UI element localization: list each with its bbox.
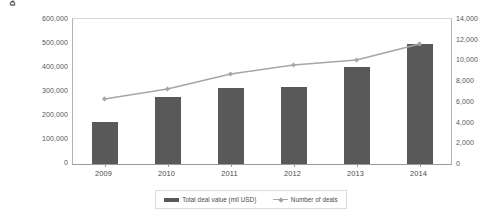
y-tick-right-10000: 10,000 [456,55,496,64]
chart-container: Deal value (mil USD) 600,000 500,000 400… [0,0,497,219]
y-tick-left-0: 0 [24,158,68,167]
x-label-2010: 2010 [135,168,198,179]
y-tick-left-500000: 500,000 [24,38,68,47]
line-marker-icon [273,197,288,202]
x-label-2009: 2009 [72,168,135,179]
y-tick-right-12000: 12,000 [456,35,496,44]
x-label-2014: 2014 [387,168,450,179]
line-marker-2012 [291,62,296,67]
y-tick-right-4000: 4,000 [456,118,496,127]
legend-item-total-deal-value: Total deal value (mil USD) [164,196,256,203]
x-tickmark-2011 [231,164,232,167]
x-label-2013: 2013 [324,168,387,179]
x-axis-category-labels: 200920102011201220132014 [72,168,450,180]
y-tick-left-100000: 100,000 [24,134,68,143]
y-tick-left-400000: 400,000 [24,62,68,71]
chart-legend: Total deal value (mil USD) Number of dea… [155,190,347,209]
x-tickmark-2009 [105,164,106,167]
y-tick-left-300000: 300,000 [24,86,68,95]
bar-swatch-icon [164,198,179,202]
x-tickmark-2014 [420,164,421,167]
x-tickmark-2010 [168,164,169,167]
line-marker-2013 [354,57,359,62]
y-tick-right-2000: 2,000 [456,138,496,147]
y-tick-left-600000: 600,000 [24,14,68,23]
x-tickmark-2012 [294,164,295,167]
line-marker-2010 [165,86,170,91]
y-axis-title: Deal value (mil USD) [6,0,20,36]
line-series-layer [73,19,451,164]
line-marker-2014 [417,41,422,46]
line-path-number-of-deals [105,44,420,99]
y-tick-left-200000: 200,000 [24,110,68,119]
x-label-2011: 2011 [198,168,261,179]
legend-label-number-of-deals: Number of deals [291,196,338,203]
legend-label-total-deal-value: Total deal value (mil USD) [182,196,256,203]
y-tick-right-6000: 6,000 [456,97,496,106]
line-marker-2011 [228,71,233,76]
y-tick-right-8000: 8,000 [456,76,496,85]
y-tick-right-0: 0 [456,159,496,168]
x-tickmark-2013 [357,164,358,167]
legend-item-number-of-deals: Number of deals [273,196,338,203]
line-marker-2009 [102,96,107,101]
plot-area [72,18,452,165]
y-tick-right-14000: 14,000 [456,14,496,23]
x-label-2012: 2012 [261,168,324,179]
